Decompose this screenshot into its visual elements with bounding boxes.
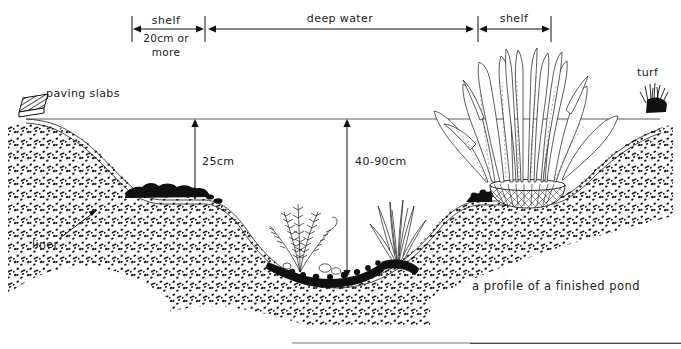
dimension-depth-shallow: 25cm	[191, 119, 234, 200]
liner-label: liner	[32, 238, 58, 251]
figure-caption: a profile of a finished pond	[472, 279, 640, 293]
paving-slabs-icon	[19, 94, 48, 117]
turf-clump	[640, 83, 668, 113]
soil-ground-mass	[0, 110, 681, 349]
paving-slabs-label: paving slabs	[46, 87, 120, 100]
dimension-deep-water: deep water	[208, 12, 474, 33]
shelf-left-label: shelf	[152, 14, 181, 27]
dimension-shelf-right: shelf	[478, 12, 551, 42]
depth-shallow-label: 25cm	[202, 155, 234, 168]
shelf-right-label: shelf	[500, 12, 529, 25]
shelf-left-sublabel-2: more	[152, 46, 180, 58]
depth-deep-label: 40-90cm	[355, 155, 407, 168]
dimension-shelf-left: shelf 20cm or more	[132, 14, 205, 58]
shelf-left-sublabel-1: 20cm or	[143, 32, 189, 44]
deep-water-label: deep water	[307, 12, 373, 25]
pond-profile-figure: shelf 20cm or more deep water shelf 25cm	[0, 0, 681, 349]
oxygenating-plant	[269, 204, 337, 272]
turf-label: turf	[637, 66, 659, 79]
